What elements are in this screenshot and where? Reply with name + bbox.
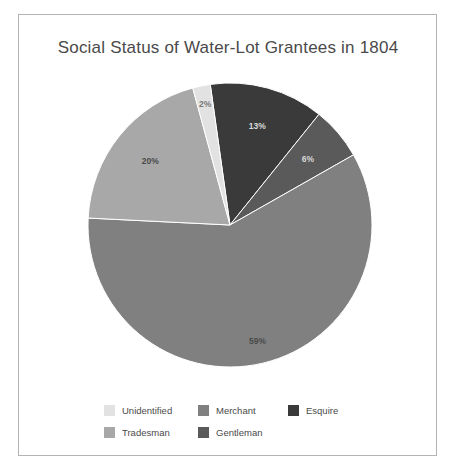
legend-label: Gentleman [216, 427, 262, 438]
legend-label: Esquire [306, 405, 338, 416]
chart-legend: UnidentifiedTradesman MerchantGentleman … [104, 400, 364, 444]
legend-column-3: Esquire [288, 400, 338, 422]
pie-slice-label: 2% [199, 99, 212, 109]
chart-figure: Social Status of Water-Lot Grantees in 1… [0, 0, 456, 476]
legend-column-1: UnidentifiedTradesman [104, 400, 172, 444]
legend-item[interactable]: Merchant [198, 400, 262, 421]
legend-item[interactable]: Tradesman [104, 422, 172, 443]
legend-label: Tradesman [122, 427, 170, 438]
chart-title: Social Status of Water-Lot Grantees in 1… [0, 38, 456, 58]
legend-swatch [288, 405, 299, 416]
pie-slice-group [88, 83, 372, 367]
pie-slice-label: 20% [142, 156, 159, 166]
legend-swatch [104, 427, 115, 438]
pie-chart-svg: 13%6%59%20%2% [87, 82, 373, 368]
pie-slice-label: 59% [249, 336, 266, 346]
legend-column-2: MerchantGentleman [198, 400, 262, 444]
legend-item[interactable]: Unidentified [104, 400, 172, 421]
legend-item[interactable]: Gentleman [198, 422, 262, 443]
legend-label: Merchant [216, 405, 256, 416]
pie-chart: 13%6%59%20%2% [87, 82, 373, 368]
legend-label: Unidentified [122, 405, 172, 416]
pie-slice-label: 13% [249, 121, 266, 131]
legend-swatch [198, 427, 209, 438]
pie-slice-label: 6% [302, 154, 315, 164]
legend-swatch [104, 405, 115, 416]
legend-swatch [198, 405, 209, 416]
legend-item[interactable]: Esquire [288, 400, 338, 421]
